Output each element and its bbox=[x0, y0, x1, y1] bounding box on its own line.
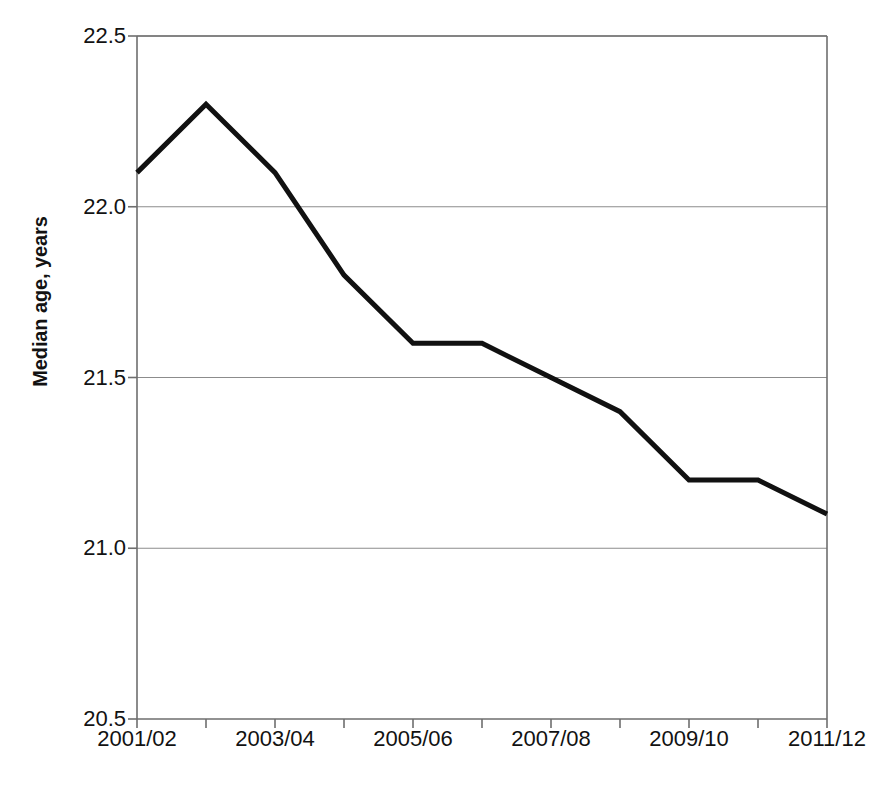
x-tick-label: 2005/06 bbox=[338, 728, 488, 750]
y-axis-tick-group bbox=[128, 36, 137, 719]
x-tick-label: 2007/08 bbox=[476, 728, 626, 750]
x-tick-label: 2001/02 bbox=[62, 728, 212, 750]
data-series-line bbox=[137, 104, 827, 514]
x-tick-label: 2003/04 bbox=[200, 728, 350, 750]
gridline-group bbox=[137, 36, 827, 548]
x-tick-label: 2011/12 bbox=[752, 728, 870, 750]
x-axis-tick-label-group: 2001/022003/042005/062007/082009/102011/… bbox=[0, 728, 863, 768]
x-tick-label: 2009/10 bbox=[614, 728, 764, 750]
